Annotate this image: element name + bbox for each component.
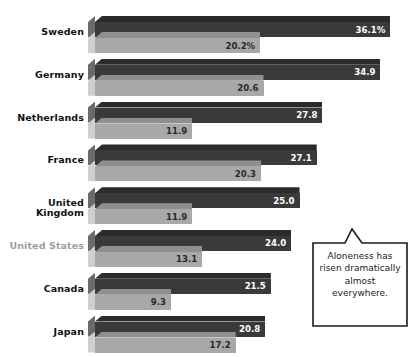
- bar-value-label: 11.9: [166, 212, 187, 221]
- callout-annotation: Aloneness has risen dramatically almost …: [312, 228, 408, 327]
- callout-text: Aloneness has risen dramatically almost …: [319, 250, 401, 300]
- bar-light: 9.3: [95, 295, 171, 310]
- bar-light: 11.9: [95, 124, 192, 139]
- bar-value-label: 11.9: [166, 127, 187, 136]
- bar-value-label: 13.1: [176, 255, 197, 264]
- category-label-netherlands: Netherlands: [0, 113, 84, 123]
- bar-value-label: 20.6: [237, 84, 258, 93]
- category-label-japan: Japan: [0, 327, 84, 337]
- chart-row: Netherlands27.811.9: [0, 100, 417, 143]
- bar-value-label: 20.8: [239, 325, 260, 334]
- chart-row: France27.120.3: [0, 142, 417, 185]
- legend-remnant: [88, 0, 268, 5]
- chart-row: United Kingdom25.011.9: [0, 185, 417, 228]
- bar-value-label: 25.0: [273, 196, 294, 205]
- bar-light: 17.2: [95, 338, 236, 353]
- category-label-germany: Germany: [0, 70, 84, 80]
- bar-value-label: 27.1: [290, 154, 311, 163]
- category-label-sweden: Sweden: [0, 27, 84, 37]
- chart-row: Sweden36.1%20.2%: [0, 14, 417, 57]
- bar-value-label: 9.3: [151, 298, 166, 307]
- category-label-united-states: United States: [0, 241, 84, 251]
- bar-value-label: 21.5: [245, 282, 266, 291]
- bar-value-label: 24.0: [265, 239, 286, 248]
- bar-value-label: 20.3: [235, 170, 256, 179]
- category-label-united-kingdom: United Kingdom: [0, 198, 84, 217]
- bar-value-label: 34.9: [354, 68, 375, 77]
- bar-light: 20.3: [95, 166, 261, 181]
- bar-light: 20.6: [95, 81, 264, 96]
- bar-value-label: 27.8: [296, 111, 317, 120]
- category-label-canada: Canada: [0, 284, 84, 294]
- bar-light: 20.2%: [95, 38, 260, 53]
- bar-light: 13.1: [95, 252, 202, 267]
- bar-value-label: 17.2: [209, 341, 230, 350]
- bar-value-label: 36.1%: [355, 25, 385, 34]
- chart-row: Germany34.920.6: [0, 57, 417, 100]
- bar-chart: Sweden36.1%20.2%Germany34.920.6Netherlan…: [0, 0, 417, 357]
- bar-value-label: 20.2%: [225, 41, 255, 50]
- category-label-france: France: [0, 155, 84, 165]
- bar-light: 11.9: [95, 209, 192, 224]
